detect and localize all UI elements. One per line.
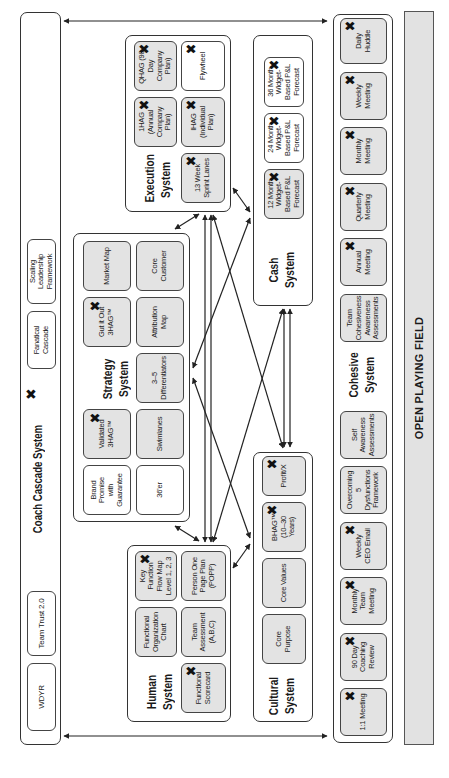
diagram-stage: WDYR Team Trust 2.0 Coach Cascade System… — [0, 0, 449, 778]
connector-arrows — [0, 0, 449, 778]
